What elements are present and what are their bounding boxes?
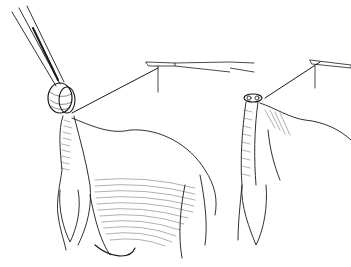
forceps-icon (12, 6, 64, 86)
suture-thread (72, 68, 158, 113)
tied-stump-icon (244, 94, 262, 102)
illustration-panel-right (230, 0, 351, 267)
tissue-body-icon (238, 102, 351, 245)
hatching (242, 110, 290, 176)
illustration-panel-left (0, 0, 230, 267)
suture-thread (265, 62, 320, 98)
tissue-body-icon (57, 116, 216, 258)
hatching (61, 120, 195, 246)
right-illustration (230, 0, 351, 267)
left-illustration (0, 0, 230, 267)
clamp-icon (146, 62, 230, 92)
clamp-icon (230, 60, 351, 88)
tissue-loop-icon (48, 83, 75, 113)
